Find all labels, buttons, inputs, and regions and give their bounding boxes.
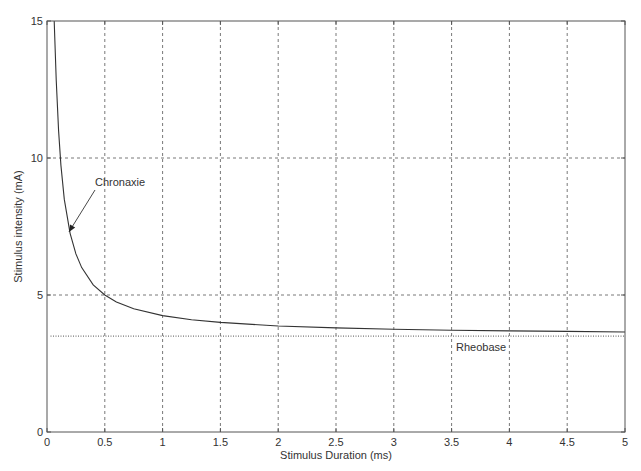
x-tick-label: 1: [160, 436, 166, 448]
chronaxie-arrow: [69, 190, 95, 232]
x-tick-label: 5: [622, 436, 628, 448]
y-tick-label: 0: [37, 426, 43, 438]
x-tick-label: 4: [506, 436, 512, 448]
rheobase-label: Rheobase: [456, 341, 506, 353]
x-tick-label: 4.5: [560, 436, 575, 448]
y-axis-label: Stimulus intensity (mA): [12, 170, 24, 282]
x-tick-label: 0.5: [97, 436, 112, 448]
x-tick-label: 2: [275, 436, 281, 448]
arrowhead-icon: [69, 224, 75, 232]
x-tick-label: 1.5: [213, 436, 228, 448]
x-tick-label: 2.5: [328, 436, 343, 448]
y-tick-label: 15: [31, 15, 43, 27]
strength-duration-chart: 00.511.522.533.544.55051015 Chronaxie Rh…: [0, 0, 641, 471]
x-tick-label: 3: [391, 436, 397, 448]
chronaxie-label: Chronaxie: [95, 176, 145, 188]
x-axis-label: Stimulus Duration (ms): [280, 449, 392, 461]
axis-ticks: 00.511.522.533.544.55051015: [31, 15, 628, 448]
y-tick-label: 5: [37, 289, 43, 301]
x-tick-label: 3.5: [444, 436, 459, 448]
y-tick-label: 10: [31, 152, 43, 164]
x-tick-label: 0: [44, 436, 50, 448]
grid-lines: [47, 21, 625, 432]
